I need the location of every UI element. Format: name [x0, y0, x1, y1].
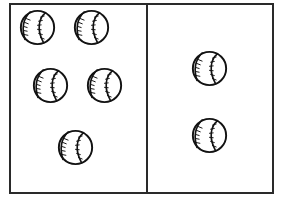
right-group-panel[interactable]	[148, 3, 274, 194]
baseball-icon	[57, 129, 94, 166]
baseball-icon	[32, 67, 69, 104]
baseball-icon	[73, 9, 110, 46]
worksheet-canvas	[0, 0, 281, 210]
baseball-icon	[191, 117, 228, 154]
baseball-icon	[86, 67, 123, 104]
baseball-icon	[19, 9, 56, 46]
baseball-icon	[191, 50, 228, 87]
